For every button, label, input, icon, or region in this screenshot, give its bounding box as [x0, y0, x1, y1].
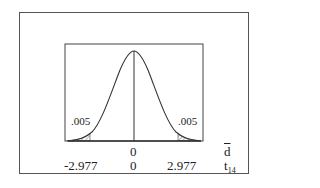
t-tick-pos: 2.977 — [167, 159, 196, 172]
right-tail-label: .005 — [178, 115, 197, 128]
t-axis-df: 14 — [228, 166, 236, 175]
t-tick-neg: -2.977 — [64, 159, 98, 172]
t-axis-label: t14 — [224, 159, 236, 174]
t-tick-zero: 0 — [130, 159, 137, 172]
dbar-zero-tick: 0 — [130, 145, 137, 158]
dbar-axis-label: d — [224, 145, 231, 158]
left-tail-label: .005 — [71, 115, 90, 128]
